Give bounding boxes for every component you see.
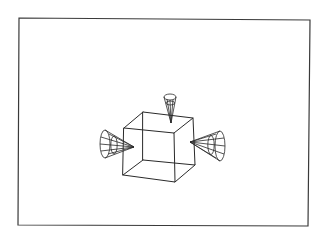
cube-back-face <box>143 112 195 165</box>
cube-front-face <box>123 128 175 182</box>
left-cone-icon <box>100 130 134 158</box>
top-cone-icon <box>164 94 176 123</box>
cube-edge <box>175 165 195 182</box>
diagram-canvas <box>0 0 326 238</box>
cube-edge <box>124 112 143 128</box>
right-cone-icon <box>190 131 225 161</box>
cube-edge <box>123 160 143 175</box>
border-frame <box>18 18 310 226</box>
cube-edge <box>174 118 193 133</box>
wireframe-scene <box>0 0 326 238</box>
